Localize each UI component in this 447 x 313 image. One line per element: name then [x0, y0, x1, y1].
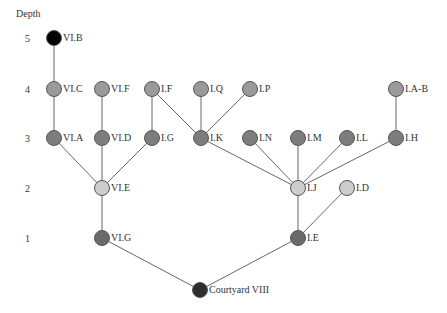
node-circle	[242, 81, 258, 97]
node-label: I.Q	[210, 84, 223, 94]
node-circle	[94, 81, 110, 97]
edge-IK-IF	[152, 89, 201, 138]
node-circle	[290, 130, 306, 146]
node-label: I.F	[161, 84, 172, 94]
node-label: I.L	[356, 133, 368, 143]
edge-IJ-IN	[250, 138, 298, 188]
node-label: VI.G	[111, 233, 131, 243]
edge-IJ-IL	[298, 138, 347, 188]
node-circle	[94, 130, 110, 146]
node-label: I.D	[356, 183, 369, 193]
node-label: VI.D	[111, 133, 131, 143]
node-label: I.E	[307, 233, 319, 243]
node-label: I.P	[259, 84, 270, 94]
node-circle	[388, 81, 404, 97]
node-label: VI.C	[63, 84, 83, 94]
node-label: VI.E	[111, 183, 130, 193]
node-circle	[46, 81, 62, 97]
edge-layer	[0, 0, 447, 313]
edge-VIE-IG	[102, 138, 152, 188]
node-label: Courtyard VIII	[209, 285, 269, 295]
node-circle	[94, 230, 110, 246]
node-circle	[193, 130, 209, 146]
node-circle	[290, 230, 306, 246]
node-circle	[46, 130, 62, 146]
node-circle	[339, 180, 355, 196]
node-label: VI.A	[63, 133, 83, 143]
node-circle	[290, 180, 306, 196]
node-label: I.G	[161, 133, 174, 143]
node-circle	[339, 130, 355, 146]
node-circle	[192, 282, 208, 298]
node-label: VI.F	[111, 84, 130, 94]
node-label: VI.B	[63, 33, 83, 43]
node-label: I.N	[259, 133, 272, 143]
node-circle	[144, 130, 160, 146]
node-circle	[242, 130, 258, 146]
node-label: I.J	[307, 183, 317, 193]
node-label: I.A-B	[405, 84, 428, 94]
node-circle	[388, 130, 404, 146]
edge-IK-IP	[201, 89, 250, 138]
edge-VIE-VIA	[54, 138, 102, 188]
node-circle	[144, 81, 160, 97]
node-label: I.M	[307, 133, 322, 143]
node-circle	[94, 180, 110, 196]
edge-CourtyardVIII-IE	[200, 238, 298, 290]
edge-IE-ID	[298, 188, 347, 238]
tree-diagram: Depth 54321 Courtyard VIIIVI.GI.EVI.EI.J…	[0, 0, 447, 313]
node-circle	[46, 30, 62, 46]
node-circle	[193, 81, 209, 97]
node-label: I.K	[210, 133, 223, 143]
edge-CourtyardVIII-VIG	[102, 238, 200, 290]
node-label: I.H	[405, 133, 418, 143]
